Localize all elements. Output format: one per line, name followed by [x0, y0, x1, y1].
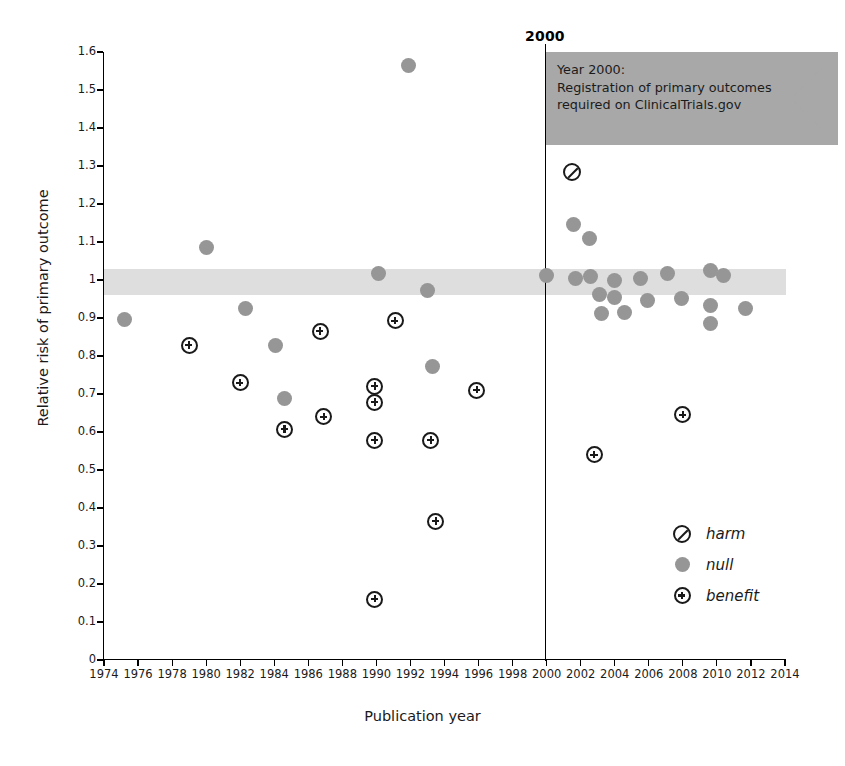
y-tick — [97, 89, 103, 90]
chart-figure: 00.10.20.30.40.50.60.70.80.911.11.21.31.… — [0, 0, 845, 766]
legend-label-harm: harm — [706, 525, 745, 543]
data-point-benefit — [312, 323, 329, 340]
legend-item-harm[interactable]: harm — [672, 518, 822, 549]
data-point-null — [703, 298, 718, 313]
x-tick — [580, 660, 581, 666]
legend-label-null: null — [706, 556, 733, 574]
data-point-benefit — [366, 432, 383, 449]
data-point-null — [238, 301, 253, 316]
y-tick-label: 0.7 — [66, 388, 96, 400]
y-tick-label: 1.5 — [66, 84, 96, 96]
y-tick-label: 1 — [66, 274, 96, 286]
data-point-null — [738, 301, 753, 316]
filled-circle-icon — [675, 557, 690, 572]
x-tick — [172, 660, 173, 666]
x-tick — [614, 660, 615, 666]
y-tick-label: 0.1 — [66, 616, 96, 628]
data-point-benefit — [366, 591, 383, 608]
y-tick-label: 1.1 — [66, 236, 96, 248]
legend-item-benefit[interactable]: benefit — [672, 580, 822, 611]
data-point-harm — [563, 163, 581, 181]
y-tick-label: 1.2 — [66, 198, 96, 210]
y-tick — [97, 51, 103, 52]
year-2000-label: 2000 — [525, 28, 565, 44]
data-point-null — [617, 305, 632, 320]
x-tick — [103, 660, 104, 666]
data-point-null — [594, 306, 609, 321]
y-tick-label: 0 — [66, 654, 96, 666]
data-point-null — [371, 266, 386, 281]
y-tick — [97, 583, 103, 584]
x-tick — [308, 660, 309, 666]
data-point-null — [268, 338, 283, 353]
y-tick-label: 0.3 — [66, 540, 96, 552]
data-point-benefit — [427, 513, 444, 530]
circle-slash-icon — [673, 525, 691, 543]
y-tick — [97, 545, 103, 546]
x-tick — [750, 660, 751, 666]
data-point-null — [568, 271, 583, 286]
data-point-benefit — [276, 421, 293, 438]
x-tick — [342, 660, 343, 666]
y-tick-label: 1.4 — [66, 122, 96, 134]
legend-label-benefit: benefit — [706, 587, 759, 605]
y-tick — [97, 659, 103, 660]
data-point-null — [425, 359, 440, 374]
annotation-line-1: Year 2000: — [557, 61, 817, 79]
y-tick — [97, 127, 103, 128]
y-tick — [97, 317, 103, 318]
x-tick — [376, 660, 377, 666]
x-tick — [716, 660, 717, 666]
data-point-null — [640, 293, 655, 308]
y-axis-line — [103, 52, 104, 661]
y-tick — [97, 355, 103, 356]
data-point-null — [582, 231, 597, 246]
y-tick-label: 0.9 — [66, 312, 96, 324]
data-point-null — [592, 287, 607, 302]
y-tick — [97, 241, 103, 242]
data-point-benefit — [181, 337, 198, 354]
x-tick — [137, 660, 138, 666]
y-tick — [97, 621, 103, 622]
annotation-line-3: required on ClinicalTrials.gov — [557, 96, 817, 114]
data-point-null — [674, 291, 689, 306]
data-point-null — [401, 58, 416, 73]
data-point-null — [607, 273, 622, 288]
x-tick-label: 2014 — [765, 668, 805, 680]
data-point-benefit — [586, 446, 603, 463]
data-point-benefit — [387, 312, 404, 329]
data-point-benefit — [366, 394, 383, 411]
data-point-benefit — [366, 378, 383, 395]
y-axis-title: Relative risk of primary outcome — [35, 158, 51, 458]
data-point-benefit — [674, 406, 691, 423]
x-tick — [478, 660, 479, 666]
data-point-null — [117, 312, 132, 327]
x-tick — [444, 660, 445, 666]
y-tick — [97, 165, 103, 166]
y-tick — [97, 431, 103, 432]
annotation-text: Year 2000: Registration of primary outco… — [557, 61, 817, 114]
y-tick-label: 1.3 — [66, 160, 96, 172]
y-tick-label: 0.4 — [66, 502, 96, 514]
data-point-benefit — [422, 432, 439, 449]
legend-item-null[interactable]: null — [672, 549, 822, 580]
x-tick — [206, 660, 207, 666]
x-tick — [410, 660, 411, 666]
x-axis-title: Publication year — [0, 708, 845, 724]
legend: harmnullbenefit — [672, 518, 822, 611]
x-tick — [240, 660, 241, 666]
annotation-line-2: Registration of primary outcomes — [557, 79, 817, 97]
data-point-null — [420, 283, 435, 298]
x-tick — [784, 660, 785, 666]
y-tick-label: 0.5 — [66, 464, 96, 476]
data-point-null — [703, 316, 718, 331]
data-point-null — [607, 290, 622, 305]
y-tick-label: 0.8 — [66, 350, 96, 362]
data-point-null — [199, 240, 214, 255]
y-tick — [97, 279, 103, 280]
data-point-null — [660, 266, 675, 281]
x-tick — [274, 660, 275, 666]
data-point-benefit — [315, 408, 332, 425]
circle-plus-icon — [674, 587, 691, 604]
y-tick — [97, 203, 103, 204]
